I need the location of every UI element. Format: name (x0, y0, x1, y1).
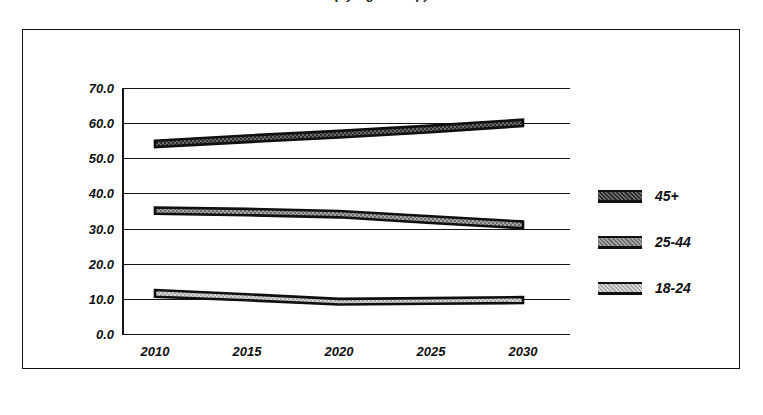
y-axis-tick-label: 10.0 (44, 293, 114, 306)
y-axis-tick-label: 0.0 (44, 328, 114, 341)
legend-item-18-24[interactable]: 18-24 (598, 277, 733, 299)
x-axis-tick-labels: 2010 2015 2020 2025 2030 (122, 344, 570, 366)
y-axis-tick-label: 30.0 (44, 223, 114, 236)
legend-swatch-18-24 (598, 282, 642, 295)
x-axis-tick-label: 2010 (125, 344, 185, 359)
x-axis-tick-label: 2025 (401, 344, 461, 359)
x-axis-tick-label: 2020 (309, 344, 369, 359)
legend-swatch-45plus (598, 190, 642, 203)
legend-label: 18-24 (655, 280, 691, 296)
legend-item-45plus[interactable]: 45+ (598, 185, 733, 207)
gridline-0 (122, 334, 570, 335)
legend-label: 25-44 (655, 234, 691, 250)
series-bands (122, 88, 570, 334)
plot-area (122, 88, 570, 334)
y-axis-tick-label: 40.0 (44, 187, 114, 200)
y-axis-tick-label: 70.0 (44, 82, 114, 95)
x-axis-tick-label: 2015 (217, 344, 277, 359)
y-axis-tick-labels: 70.0 60.0 50.0 40.0 30.0 20.0 10.0 0.0 (40, 88, 114, 334)
chart-title-clipped: (by Age Group) (0, 0, 763, 3)
band-25-44 (155, 207, 523, 228)
y-axis-tick-label: 20.0 (44, 258, 114, 271)
band-45plus (155, 120, 523, 147)
y-axis-tick-label: 60.0 (44, 117, 114, 130)
chart-legend: 45+ 25-44 18-24 (598, 185, 733, 300)
chart-title: (by Age Group) (0, 0, 763, 3)
legend-item-25-44[interactable]: 25-44 (598, 231, 733, 253)
y-axis-tick-label: 50.0 (44, 152, 114, 165)
band-18-24 (155, 290, 523, 304)
x-axis-tick-label: 2030 (493, 344, 553, 359)
legend-label: 45+ (655, 188, 679, 204)
legend-swatch-25-44 (598, 236, 642, 249)
chart-screenshot: (by Age Group) 70.0 60.0 50.0 40.0 30.0 … (0, 0, 763, 415)
